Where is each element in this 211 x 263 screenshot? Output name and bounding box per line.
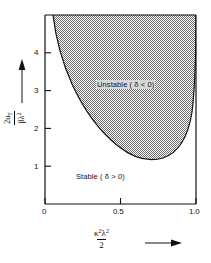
stable-region-label: Stable ( δ > 0): [76, 172, 125, 181]
y-axis-ticks: [45, 53, 51, 166]
right-arrow-icon: [145, 239, 182, 246]
x-label-lambda-sup: 2: [106, 228, 109, 234]
unstable-region-label: Unstable ( δ < 0): [96, 80, 155, 89]
y-tick-label-4: 4: [34, 48, 38, 57]
y-label-denominator: βλ: [17, 116, 26, 124]
y-label-numerator: 2u: [3, 116, 12, 124]
y-tick-label-1: 1: [34, 162, 38, 171]
x-label-denominator: 2: [99, 240, 104, 250]
y-axis-label: 2uT βλ2: [2, 86, 28, 150]
plot-canvas: [0, 0, 211, 263]
x-axis-ticks: [45, 198, 196, 204]
y-tick-label-2: 2: [34, 124, 38, 133]
x-axis-label: κ2λ2 2: [92, 228, 111, 250]
y-tick-label-3: 3: [34, 86, 38, 95]
stability-diagram-figure: 1 2 3 4 0 0.5 1.0 2uT βλ2 κ2λ2 2 Unstabl…: [0, 0, 211, 263]
y-label-numerator-sub: T: [7, 112, 13, 116]
x-tick-label-0-5: 0.5: [113, 207, 124, 216]
y-label-denominator-sup: 2: [16, 113, 22, 116]
x-tick-label-0: 0: [42, 207, 46, 216]
x-tick-label-1-0: 1.0: [189, 207, 200, 216]
